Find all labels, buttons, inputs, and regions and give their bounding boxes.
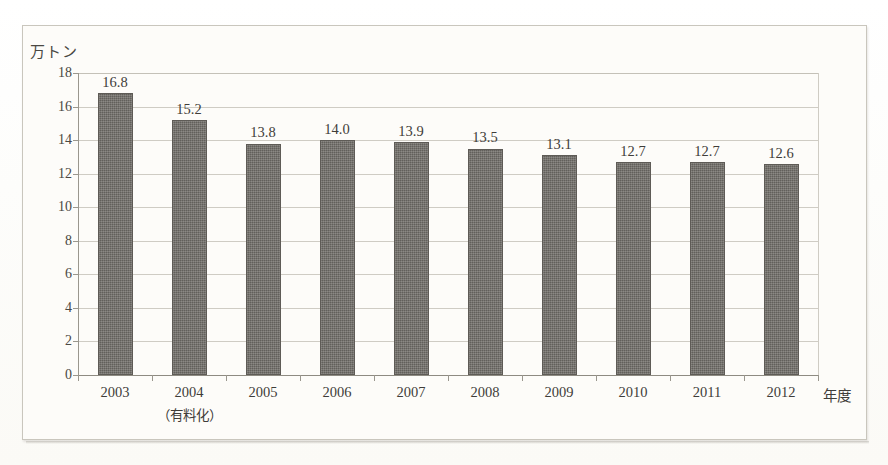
x-category-label-2012: 2012 [744, 384, 818, 401]
bar-2012[interactable] [764, 164, 799, 375]
x-tick-mark [522, 375, 523, 381]
x-category-label-2009: 2009 [522, 384, 596, 401]
y-tick-mark [73, 174, 79, 175]
bar-value-label: 12.6 [746, 145, 816, 162]
y-tick-mark [73, 241, 79, 242]
y-axis-tick-labels: 18 16 14 12 10 8 6 4 2 0 [28, 73, 72, 375]
scanned-page: 万トン 18 16 14 12 10 8 6 4 2 0 [0, 0, 888, 465]
x-category-label-2008: 2008 [448, 384, 522, 401]
x-category-label-2005: 2005 [226, 384, 300, 401]
plot-right-border [818, 73, 819, 376]
y-tick-mark [73, 341, 79, 342]
y-tick-label: 6 [32, 266, 72, 282]
bar-2005[interactable] [246, 144, 281, 376]
x-tick-mark [300, 375, 301, 381]
y-tick-mark [73, 308, 79, 309]
y-tick-mark [73, 207, 79, 208]
y-tick-label: 14 [32, 132, 72, 148]
bar-value-label: 16.8 [80, 74, 150, 91]
x-category-label-2007: 2007 [374, 384, 448, 401]
y-tick-label: 4 [32, 300, 72, 316]
x-tick-mark [448, 375, 449, 381]
x-tick-mark [226, 375, 227, 381]
scan-bottom-bleed-text [330, 458, 630, 465]
bar-value-label: 12.7 [672, 143, 742, 160]
x-tick-mark [374, 375, 375, 381]
y-tick-label: 18 [32, 65, 72, 81]
bar-value-label: 13.8 [228, 124, 298, 141]
x-tick-mark [596, 375, 597, 381]
bar-2008[interactable] [468, 149, 503, 376]
bar-2003[interactable] [98, 93, 133, 375]
bar-2006[interactable] [320, 140, 355, 375]
y-axis-line [78, 73, 79, 376]
bar-2007[interactable] [394, 142, 429, 375]
x-category-label-2003: 2003 [78, 384, 152, 401]
bar-value-label: 13.1 [524, 136, 594, 153]
gridline-18 [78, 73, 818, 74]
y-tick-label: 12 [32, 166, 72, 182]
x-category-label-2006: 2006 [300, 384, 374, 401]
y-tick-mark [73, 107, 79, 108]
bar-value-label: 14.0 [302, 121, 372, 138]
bar-2004[interactable] [172, 120, 207, 375]
bar-value-label: 13.5 [450, 129, 520, 146]
y-tick-mark [73, 140, 79, 141]
x-tick-mark [78, 375, 79, 381]
bar-2010[interactable] [616, 162, 651, 375]
x-category-label-2011: 2011 [670, 384, 744, 401]
x-axis-unit-label: 年度 [823, 384, 851, 405]
frame-drop-shadow [26, 441, 869, 444]
bar-value-label: 13.9 [376, 123, 446, 140]
x-category-label-2004: 2004 [152, 384, 226, 401]
x-tick-mark [152, 375, 153, 381]
y-axis-unit-label: 万トン [30, 40, 78, 61]
x-tick-mark [744, 375, 745, 381]
y-tick-label: 8 [32, 233, 72, 249]
bar-value-label: 12.7 [598, 143, 668, 160]
x-category-sublabel-2004: （有料化） [152, 404, 226, 424]
x-tick-mark [670, 375, 671, 381]
bar-2009[interactable] [542, 155, 577, 375]
y-tick-label: 2 [32, 333, 72, 349]
y-tick-mark [73, 73, 79, 74]
bar-2011[interactable] [690, 162, 725, 375]
y-tick-label: 10 [32, 199, 72, 215]
y-tick-label: 16 [32, 99, 72, 115]
bar-value-label: 15.2 [154, 101, 224, 118]
x-tick-mark [818, 375, 819, 381]
y-tick-mark [73, 274, 79, 275]
x-category-label-2010: 2010 [596, 384, 670, 401]
y-tick-label: 0 [32, 367, 72, 383]
